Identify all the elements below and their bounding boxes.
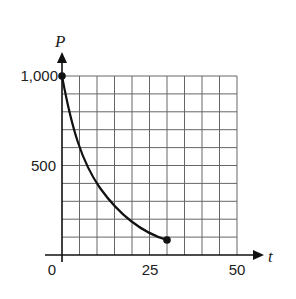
y-axis-arrow-icon: [57, 52, 67, 63]
y-tick-500: 500: [31, 157, 56, 174]
x-axis-label: t: [268, 247, 274, 266]
chart: P t 1,000 500 0 25 50: [0, 0, 296, 299]
y-tick-1000: 1,000: [20, 67, 58, 84]
y-axis-label: P: [54, 32, 65, 51]
end-point: [163, 236, 171, 244]
x-axis-arrow-icon: [253, 250, 264, 260]
x-tick-0: 0: [48, 261, 56, 278]
x-tick-25: 25: [142, 261, 159, 278]
x-tick-50: 50: [229, 261, 246, 278]
start-point: [58, 72, 66, 80]
